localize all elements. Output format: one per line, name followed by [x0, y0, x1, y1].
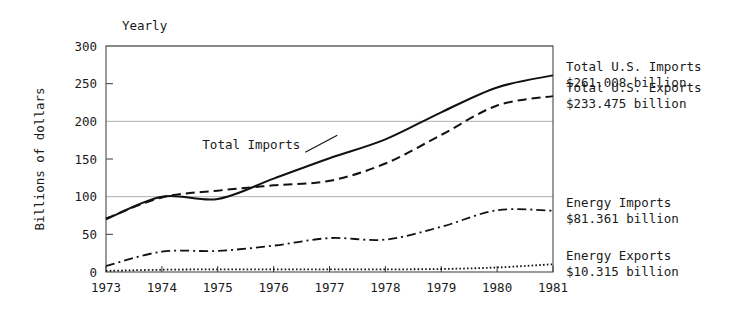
annotation-leader-line: [305, 135, 337, 152]
data-series-group: [106, 75, 553, 271]
legend-entry-value: $81.361 billion: [566, 211, 679, 226]
legend-entry-name: Energy Imports: [566, 195, 671, 210]
x-tick-label: 1978: [370, 280, 400, 295]
chart-title: Yearly: [122, 18, 168, 33]
legend-entry-name: Energy Exports: [566, 248, 671, 263]
series-line-dash-dot: [106, 209, 553, 266]
x-tick-label: 1976: [259, 280, 289, 295]
gridlines: [106, 46, 553, 234]
y-axis-title: Billions of dollars: [32, 88, 47, 231]
x-tick-label: 1974: [147, 280, 177, 295]
y-axis-ticks: 050100150200250300: [74, 39, 97, 280]
y-tick-label: 200: [74, 114, 97, 129]
legend-entry-name: Total U.S. Imports: [566, 59, 701, 74]
annotation-label: Total Imports: [202, 137, 300, 152]
legend-entry-value: $10.315 billion: [566, 264, 679, 279]
x-tick-label: 1980: [482, 280, 512, 295]
legend-entry-value: $233.475 billion: [566, 96, 686, 111]
x-tick-label: 1973: [91, 280, 121, 295]
y-tick-label: 300: [74, 39, 97, 54]
y-tick-label: 0: [89, 265, 97, 280]
line-chart: Yearly Billions of dollars 0501001502002…: [0, 0, 732, 313]
y-tick-label: 150: [74, 152, 97, 167]
chart-container: Yearly Billions of dollars 0501001502002…: [0, 0, 732, 313]
legend-entry-name: Total U.S. Exports: [566, 80, 701, 95]
y-tick-label: 250: [74, 76, 97, 91]
y-tick-label: 50: [82, 227, 97, 242]
x-tick-label: 1977: [314, 280, 344, 295]
y-tick-label: 100: [74, 189, 97, 204]
x-axis-ticks: 197319741975197619771978197919801981: [91, 266, 568, 295]
chart-annotations: Total Imports: [202, 135, 337, 152]
series-line-solid: [106, 75, 553, 219]
x-tick-label: 1979: [426, 280, 456, 295]
x-tick-label: 1981: [538, 280, 568, 295]
x-tick-label: 1975: [203, 280, 233, 295]
legend: Total U.S. Imports$261.008 billionTotal …: [566, 59, 701, 279]
